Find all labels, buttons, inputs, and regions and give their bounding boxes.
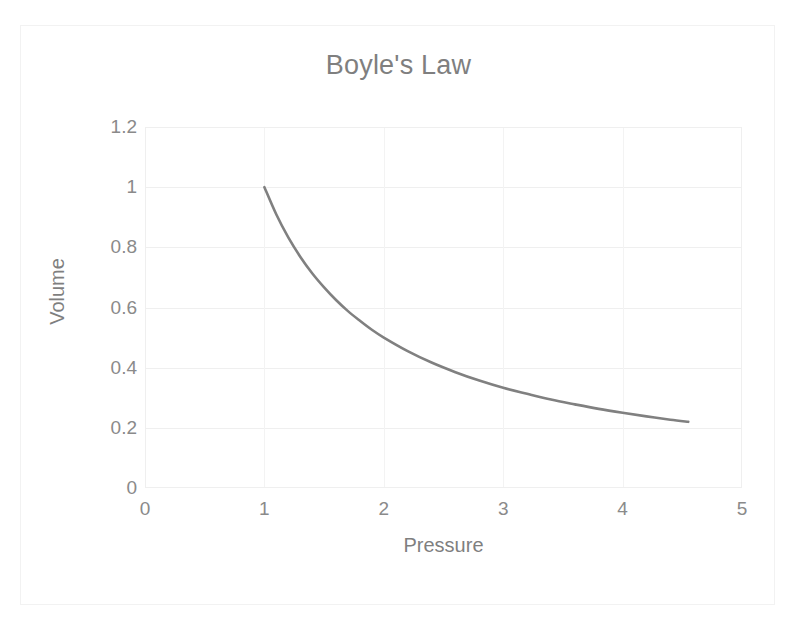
y-axis-tick-label: 0.6 <box>77 297 137 319</box>
plot-area <box>145 127 742 488</box>
y-axis-tick-label: 0 <box>77 477 137 499</box>
x-axis-tick-label: 2 <box>354 498 414 520</box>
x-axis-tick-label: 0 <box>115 498 175 520</box>
y-axis-tick-label: 1 <box>77 176 137 198</box>
chart-title: Boyle's Law <box>21 50 776 81</box>
y-axis-tick-label: 0.4 <box>77 357 137 379</box>
x-axis-tick-label: 4 <box>593 498 653 520</box>
y-axis-tick-label: 1.2 <box>77 116 137 138</box>
x-axis-tick-label: 1 <box>234 498 294 520</box>
x-axis-tick-labels: 012345 <box>145 498 742 526</box>
y-axis-title: Volume <box>46 212 69 372</box>
chart-frame: Boyle's Law 00.20.40.60.811.2 012345 Pre… <box>20 25 775 605</box>
x-axis-tick-label: 3 <box>473 498 533 520</box>
y-axis-tick-label: 0.8 <box>77 236 137 258</box>
y-axis-tick-label: 0.2 <box>77 417 137 439</box>
series-line-volume <box>145 127 742 488</box>
y-axis-tick-labels: 00.20.40.60.811.2 <box>71 127 137 488</box>
x-axis-tick-label: 5 <box>712 498 772 520</box>
x-axis-title: Pressure <box>145 534 742 557</box>
